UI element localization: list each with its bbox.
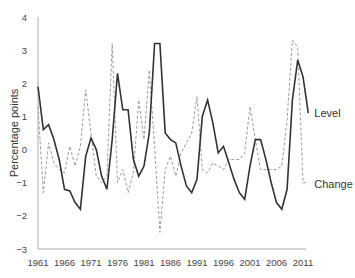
x-tick-label: 1966 [54,257,75,268]
y-tick-label: 0 [22,144,27,155]
line-chart: −3−2−101234 1961196619711976198119861991… [0,0,355,278]
y-tick-label: −1 [16,177,27,188]
level-series-label: Level [314,107,340,119]
x-tick-label: 2006 [266,257,287,268]
x-tick-label: 2001 [239,257,260,268]
y-tick-label: 1 [22,111,27,122]
y-tick-label: 2 [22,78,27,89]
y-axis-label: Percentage points [8,88,20,177]
x-tick-label: 1961 [27,257,48,268]
change-series-label: Change [314,178,353,190]
x-tick-label: 1976 [107,257,128,268]
y-tick-label: 4 [22,12,27,23]
level-series-line [38,44,308,210]
x-tick-label: 1996 [213,257,234,268]
axes [38,17,306,249]
x-axis-ticks: 1961196619711976198119861991199620012006… [27,257,313,268]
change-series-line [38,40,308,232]
y-tick-label: −2 [16,210,27,221]
x-tick-label: 1981 [133,257,154,268]
y-tick-label: 3 [22,45,27,56]
x-tick-label: 1986 [160,257,181,268]
y-tick-label: −3 [16,244,27,255]
x-tick-label: 1971 [80,257,101,268]
x-tick-label: 1991 [186,257,207,268]
x-tick-label: 2011 [293,257,313,268]
